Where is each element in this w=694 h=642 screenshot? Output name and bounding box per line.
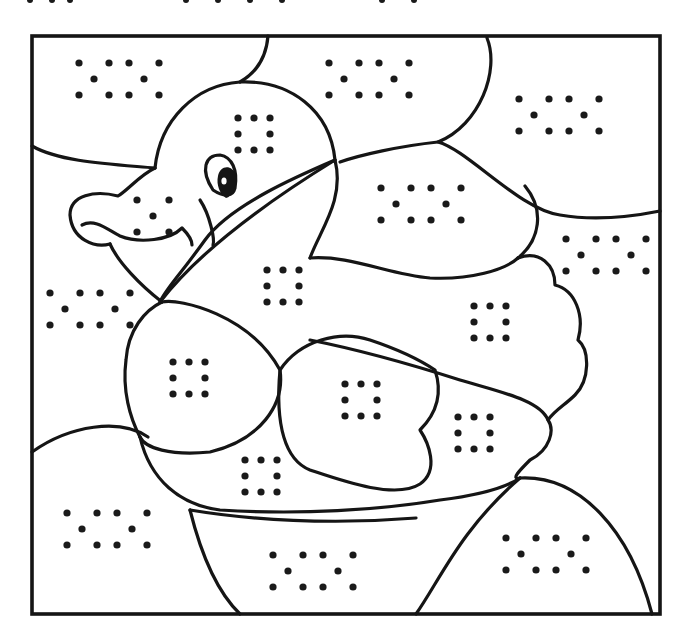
- dot: [273, 488, 280, 495]
- dot: [612, 267, 619, 274]
- dot-pattern-sky-mid-center: [377, 184, 464, 223]
- dot: [201, 358, 208, 365]
- water-center-left: [190, 510, 240, 614]
- dot: [565, 95, 572, 102]
- dot: [128, 525, 135, 532]
- dot-pattern-back-wing: [470, 302, 509, 341]
- dot: [595, 127, 602, 134]
- dot: [341, 380, 348, 387]
- dot: [105, 91, 112, 98]
- dot: [592, 267, 599, 274]
- dot: [532, 566, 539, 573]
- partial-dot: [27, 0, 33, 3]
- dot: [427, 184, 434, 191]
- cloud-top-left-edge: [240, 36, 268, 82]
- dot: [357, 380, 364, 387]
- dot: [143, 541, 150, 548]
- dot: [377, 184, 384, 191]
- dot: [375, 59, 382, 66]
- dot-pattern-sky-top-right: [515, 95, 602, 134]
- dot: [113, 541, 120, 548]
- partial-dot: [215, 0, 221, 3]
- dot: [185, 390, 192, 397]
- duck-beak-under: [110, 244, 162, 302]
- dot: [250, 146, 257, 153]
- dot: [486, 334, 493, 341]
- dot: [545, 95, 552, 102]
- dot: [392, 200, 399, 207]
- dot: [143, 509, 150, 516]
- top-partial-dots: [27, 0, 417, 3]
- dot: [582, 534, 589, 541]
- dot: [234, 130, 241, 137]
- cloud-mid-center-bottom: [310, 258, 518, 279]
- dot: [241, 472, 248, 479]
- dot: [155, 91, 162, 98]
- dot: [257, 456, 264, 463]
- dot: [502, 334, 509, 341]
- picture-frame: [32, 36, 660, 614]
- dot: [349, 551, 356, 558]
- dot: [502, 318, 509, 325]
- dot: [486, 302, 493, 309]
- dot: [133, 228, 140, 235]
- dot: [562, 235, 569, 242]
- dot: [319, 583, 326, 590]
- cloud-mid-center-outline: [340, 142, 438, 162]
- dot-pattern-front-wing: [341, 380, 380, 419]
- duck-front-wing: [279, 336, 439, 490]
- dot: [250, 114, 257, 121]
- dot: [75, 91, 82, 98]
- partial-dot: [247, 0, 253, 3]
- dot: [241, 488, 248, 495]
- dot: [355, 91, 362, 98]
- dot: [454, 445, 461, 452]
- dot: [592, 235, 599, 242]
- dot: [263, 282, 270, 289]
- duck-eye-highlight: [221, 177, 226, 184]
- dot: [407, 184, 414, 191]
- partial-dot: [279, 0, 285, 3]
- duck-body-bottom: [140, 437, 520, 512]
- partial-dot: [67, 0, 73, 3]
- dot: [552, 566, 559, 573]
- dot: [627, 251, 634, 258]
- dot: [340, 75, 347, 82]
- dot-pattern-water-right: [502, 534, 589, 573]
- dot: [532, 534, 539, 541]
- dot: [241, 456, 248, 463]
- duck-head-outline: [155, 82, 335, 168]
- dot: [470, 445, 477, 452]
- dot: [234, 114, 241, 121]
- dot: [266, 130, 273, 137]
- dot-pattern-sky-top-center: [325, 59, 412, 98]
- dot: [502, 302, 509, 309]
- dot: [470, 413, 477, 420]
- dot: [299, 583, 306, 590]
- dot: [111, 305, 118, 312]
- dot: [155, 59, 162, 66]
- dot-pattern-sky-mid-right: [562, 235, 649, 274]
- dot: [442, 200, 449, 207]
- dot: [46, 321, 53, 328]
- dot: [61, 305, 68, 312]
- duck-body-outer: [140, 301, 281, 453]
- dot: [46, 289, 53, 296]
- dot: [341, 396, 348, 403]
- dot: [165, 196, 172, 203]
- dot: [454, 413, 461, 420]
- dot: [201, 390, 208, 397]
- dot-pattern-wing-tip: [454, 413, 493, 452]
- dot-pattern-front-body: [169, 358, 208, 397]
- dot: [76, 289, 83, 296]
- dot: [642, 267, 649, 274]
- dot-pattern-sky-left: [46, 289, 133, 328]
- dot: [405, 59, 412, 66]
- dot: [454, 429, 461, 436]
- dot: [93, 509, 100, 516]
- dot: [517, 550, 524, 557]
- dot: [325, 59, 332, 66]
- duck-wing-top-edge: [310, 340, 548, 420]
- dot: [113, 509, 120, 516]
- dot: [457, 216, 464, 223]
